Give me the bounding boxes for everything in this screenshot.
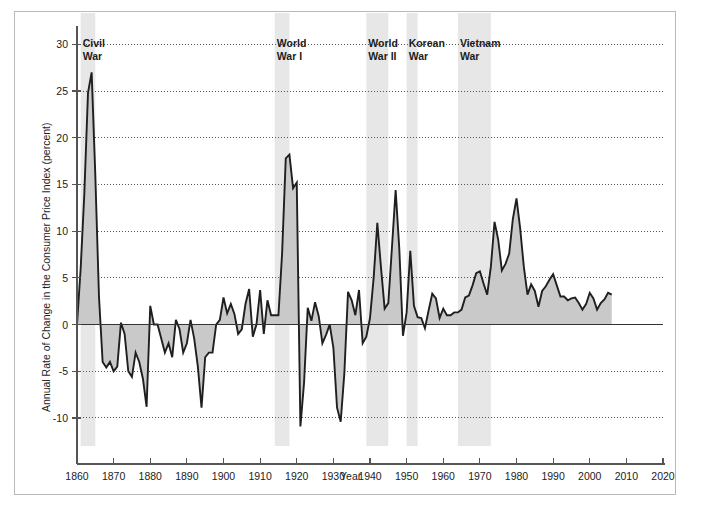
y-tick-label-5: 5 xyxy=(62,272,68,284)
war-label-1-line2: War xyxy=(83,50,102,62)
x-tick-label-1940: 1940 xyxy=(358,470,382,482)
x-tick-label-1870: 1870 xyxy=(102,470,126,482)
y-tick-label-10: 10 xyxy=(56,225,68,237)
x-tick-label-1890: 1890 xyxy=(175,470,199,482)
plot-background xyxy=(15,12,675,494)
chart-figure: -10-505101520253018601870188018901900191… xyxy=(0,0,705,517)
war-label-4-line2: War xyxy=(409,50,428,62)
x-tick-label-1880: 1880 xyxy=(139,470,163,482)
x-tick-label-1990: 1990 xyxy=(541,470,565,482)
x-tick-label-1860: 1860 xyxy=(65,470,89,482)
chart-frame: -10-505101520253018601870188018901900191… xyxy=(14,11,676,495)
x-axis-title: Year xyxy=(340,470,361,482)
y-tick-label-30: 30 xyxy=(56,38,68,50)
y-tick-label--5: -5 xyxy=(59,365,68,377)
war-label-2-line2: War I xyxy=(277,50,302,62)
war-label-3-line1: World xyxy=(368,37,398,49)
y-tick-label-20: 20 xyxy=(56,132,68,144)
x-tick-label-2000: 2000 xyxy=(578,470,602,482)
x-tick-label-1960: 1960 xyxy=(432,470,456,482)
y-tick-label-0: 0 xyxy=(62,319,68,331)
war-label-5-line1: Vietnam xyxy=(460,37,501,49)
war-label-4-line1: Korean xyxy=(409,37,445,49)
y-tick-label-15: 15 xyxy=(56,178,68,190)
x-tick-label-1900: 1900 xyxy=(212,470,236,482)
y-tick-label--10: -10 xyxy=(53,412,68,424)
x-tick-label-1970: 1970 xyxy=(468,470,492,482)
y-axis-title: Annual Rate of Change in the Consumer Pr… xyxy=(40,123,52,413)
war-label-1-line1: Civil xyxy=(83,37,105,49)
x-tick-label-1950: 1950 xyxy=(395,470,419,482)
war-label-5-line2: War xyxy=(460,50,479,62)
war-label-2-line1: World xyxy=(277,37,307,49)
x-tick-label-2020: 2020 xyxy=(651,470,675,482)
chart-plot-area: -10-505101520253018601870188018901900191… xyxy=(15,12,675,494)
x-tick-label-1980: 1980 xyxy=(505,470,529,482)
x-tick-label-1910: 1910 xyxy=(248,470,272,482)
war-band-5 xyxy=(458,13,491,446)
war-label-3-line2: War II xyxy=(368,50,396,62)
x-tick-label-1920: 1920 xyxy=(285,470,309,482)
y-tick-label-25: 25 xyxy=(56,85,68,97)
x-tick-label-2010: 2010 xyxy=(615,470,639,482)
war-band-4 xyxy=(407,13,418,446)
